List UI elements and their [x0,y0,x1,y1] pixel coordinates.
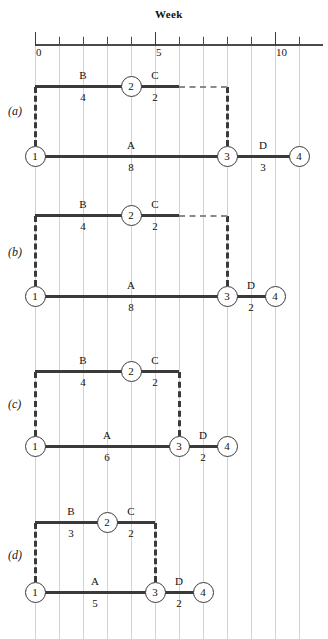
task-bar-b-A [35,295,227,298]
task-name-b-A: A [111,279,151,291]
axis-title: Week [155,8,183,20]
task-duration-a-A: 8 [111,161,151,173]
axis-tick-7 [203,37,204,46]
event-node-b-2: 2 [121,205,142,226]
task-name-c-C: C [135,354,175,366]
task-bar-d-A [35,591,155,594]
event-node-b-1: 1 [25,286,46,307]
axis-tick-label-5: 5 [156,46,162,58]
event-node-c-3: 3 [169,436,190,457]
task-name-d-A: A [75,575,115,587]
axis-tick-label-0: 0 [36,46,42,58]
task-name-a-A: A [111,139,151,151]
task-duration-b-D: 2 [231,301,271,313]
event-node-d-1: 1 [25,582,46,603]
task-name-d-D: D [159,575,199,587]
task-name-d-B: B [51,505,91,517]
task-duration-a-C: 2 [135,91,175,103]
dummy-link-d-5 [154,523,157,582]
task-name-b-B: B [63,198,103,210]
axis-tick-label-10: 10 [276,46,287,58]
event-node-c-1: 1 [25,436,46,457]
gantt-figure: Week0510(a)B4C2A8D31234(b)B4C2A8D21234(c… [0,0,328,639]
task-duration-b-A: 8 [111,301,151,313]
task-duration-a-B: 4 [63,91,103,103]
axis-tick-11 [299,37,300,46]
task-name-a-B: B [63,69,103,81]
axis-tick-4 [131,37,132,46]
event-node-d-4: 4 [193,582,214,603]
gridline-week-9 [251,36,252,639]
gridline-week-4 [131,36,132,639]
task-duration-c-A: 6 [87,451,127,463]
axis-tick-5 [155,32,156,46]
task-name-b-C: C [135,198,175,210]
axis-tick-0 [35,32,36,46]
axis-tick-8 [227,37,228,46]
task-name-d-C: C [111,505,151,517]
task-bar-b-B [35,214,131,217]
task-name-c-B: B [63,354,103,366]
dummy-link-a-0 [34,87,37,146]
dummy-link-d-0 [34,523,37,582]
gridline-week-2 [83,36,84,639]
task-name-b-D: D [231,279,271,291]
task-name-c-A: A [87,429,127,441]
gridline-week-3 [107,36,108,639]
task-duration-d-A: 5 [75,597,115,609]
gridline-week-1 [59,36,60,639]
axis-tick-10 [275,32,276,46]
task-name-a-C: C [135,69,175,81]
task-duration-c-B: 4 [63,376,103,388]
event-node-d-2: 2 [97,512,118,533]
task-duration-c-D: 2 [183,451,223,463]
event-node-a-1: 1 [25,146,46,167]
task-bar-a-B [35,85,131,88]
dummy-link-a-8 [226,87,229,146]
axis-tick-9 [251,37,252,46]
gridline-week-10 [275,36,276,639]
panel-label-d: (d) [8,548,22,563]
task-bar-c-A [35,445,179,448]
event-node-b-3: 3 [217,286,238,307]
task-name-a-D: D [243,139,283,151]
event-node-c-4: 4 [217,436,238,457]
event-node-c-2: 2 [121,361,142,382]
task-duration-b-B: 4 [63,220,103,232]
float-link-a [179,86,227,88]
task-bar-a-A [35,155,227,158]
event-node-d-3: 3 [145,582,166,603]
gridline-week-7 [203,36,204,639]
task-duration-a-D: 3 [243,161,283,173]
panel-label-c: (c) [8,397,21,412]
float-link-b [179,215,227,217]
dummy-link-b-0 [34,216,37,286]
task-duration-d-C: 2 [111,527,151,539]
task-duration-b-C: 2 [135,220,175,232]
panel-label-a: (a) [8,104,22,119]
axis-tick-3 [107,37,108,46]
axis-tick-1 [59,37,60,46]
task-duration-c-C: 2 [135,376,175,388]
gridline-week-11 [299,36,300,639]
event-node-a-4: 4 [289,146,310,167]
axis-tick-2 [83,37,84,46]
task-bar-c-B [35,370,131,373]
task-duration-d-B: 3 [51,527,91,539]
event-node-a-3: 3 [217,146,238,167]
event-node-a-2: 2 [121,76,142,97]
gridline-week-6 [179,36,180,639]
task-duration-d-D: 2 [159,597,199,609]
event-node-b-4: 4 [265,286,286,307]
axis-tick-6 [179,37,180,46]
dummy-link-c-0 [34,372,37,436]
task-name-c-D: D [183,429,223,441]
dummy-link-b-8 [226,216,229,286]
dummy-link-c-6 [178,372,181,436]
panel-label-b: (b) [8,245,22,260]
